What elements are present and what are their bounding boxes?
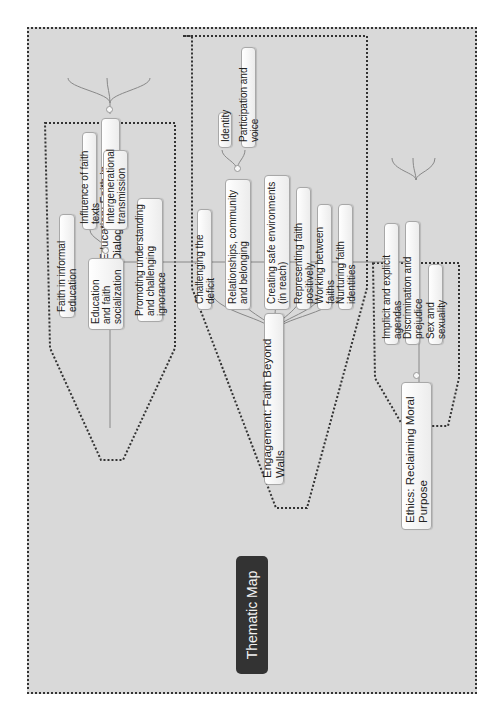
- branch-ethics[interactable]: Ethics: Reclaiming Moral Purpose: [401, 382, 432, 530]
- topic-identity[interactable]: Identity: [218, 112, 232, 148]
- topic-education-faith-socialization[interactable]: Education and faith socialization: [88, 258, 124, 330]
- topic-working-between-faiths[interactable]: Working between faiths: [317, 204, 332, 310]
- expand-knob-education[interactable]: [106, 106, 113, 113]
- expand-knob-socialization[interactable]: [102, 247, 109, 254]
- topic-nurturing-faith-identities[interactable]: Nurturing faith identities: [338, 204, 353, 310]
- thematic-map-diagram: Thematic Map Education: Faith in Dialogu…: [0, 0, 499, 718]
- topic-faith-in-informal-education-node[interactable]: Faith in informal education: [59, 214, 75, 318]
- expand-knob-relationships[interactable]: [234, 165, 241, 172]
- root-label: Thematic Map: [244, 571, 260, 660]
- topic-creating-safe-environments[interactable]: Creating safe environments (in reach): [264, 175, 290, 310]
- topic-relationships-community-belonging[interactable]: Relationships, community and belonging: [225, 179, 251, 310]
- topic-promoting-understanding[interactable]: Promoting understanding and challenging …: [137, 198, 163, 322]
- root-node-thematic-map[interactable]: Thematic Map: [236, 556, 268, 674]
- expand-knob-ethics[interactable]: [413, 372, 420, 379]
- topic-discrimination-prejudice[interactable]: Discrimination and prejudice: [405, 221, 420, 345]
- topic-representing-faith-positively[interactable]: Representing faith positively: [296, 187, 311, 310]
- topic-influence-of-faith-texts[interactable]: Influence of faith texts: [82, 132, 97, 230]
- branch-engagement[interactable]: Engagement: Faith Beyond Walls: [264, 313, 284, 485]
- topic-participation-and-voice[interactable]: Participation and voice: [241, 47, 256, 148]
- topic-intergenerational-transmission[interactable]: Intergenerational transmission: [103, 150, 128, 230]
- topic-sex-and-sexuality[interactable]: Sex and sexuality: [428, 264, 443, 345]
- topic-challenging-the-deficit[interactable]: Challenging the deficit: [197, 209, 212, 310]
- topic-implicit-explicit-agendas[interactable]: Implicit and explicit agendas: [384, 223, 399, 345]
